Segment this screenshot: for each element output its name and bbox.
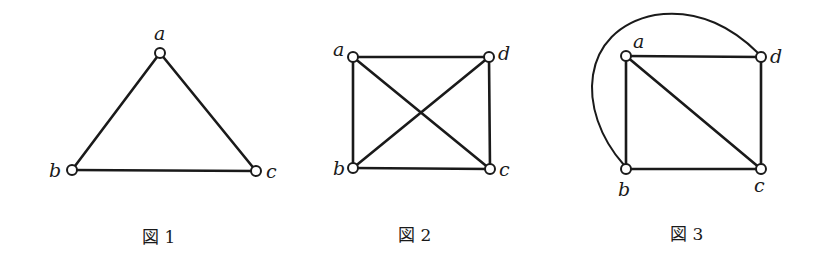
vertex-b xyxy=(348,163,358,173)
edge-b-c xyxy=(353,168,490,169)
figure-caption: 図 2 xyxy=(398,225,431,245)
vertex-label-a: a xyxy=(154,22,165,44)
vertex-a xyxy=(155,48,165,58)
edge-d-c xyxy=(489,57,490,169)
figure-1: a b c 図 1 xyxy=(49,22,277,247)
vertex-d xyxy=(756,52,766,62)
vertex-label-d: d xyxy=(770,45,782,67)
edge-b-c xyxy=(72,170,256,171)
vertex-c xyxy=(251,166,261,176)
edge-b-d-curved xyxy=(592,14,758,165)
edge-a-c xyxy=(160,53,256,171)
vertex-label-b: b xyxy=(618,178,630,200)
vertex-label-b: b xyxy=(49,159,61,181)
figure-3: a d b c 図 3 xyxy=(592,14,782,244)
vertex-b xyxy=(67,165,77,175)
vertex-label-c: c xyxy=(266,160,277,182)
vertex-a xyxy=(621,51,631,61)
vertex-label-b: b xyxy=(333,157,345,179)
edge-a-b xyxy=(72,53,160,170)
vertex-label-c: c xyxy=(754,174,765,196)
vertex-b xyxy=(621,164,631,174)
vertex-label-c: c xyxy=(499,158,510,180)
figure-caption: 図 1 xyxy=(142,227,175,247)
vertex-d xyxy=(484,52,494,62)
vertex-label-a: a xyxy=(333,38,344,60)
vertex-label-d: d xyxy=(498,42,510,64)
vertex-a xyxy=(348,52,358,62)
vertex-c xyxy=(485,164,495,174)
figure-caption: 図 3 xyxy=(670,224,703,244)
edge-a-d xyxy=(626,56,761,57)
vertex-label-a: a xyxy=(633,30,644,52)
figure-2: a d b c 図 2 xyxy=(333,38,510,245)
graph-figures: a b c 図 1 a d b c 図 2 a d b c xyxy=(0,0,820,259)
vertex-c xyxy=(756,164,766,174)
edge-a-c xyxy=(626,56,761,169)
